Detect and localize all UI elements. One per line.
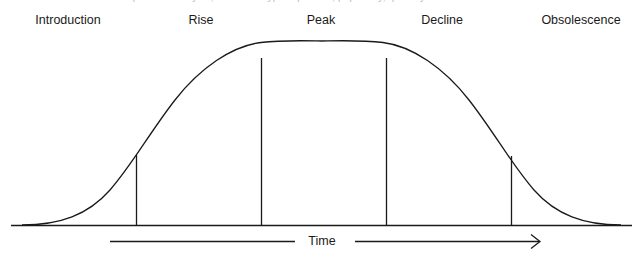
- time-axis-label: Time: [308, 232, 335, 250]
- bell-curve-plot: [0, 0, 643, 263]
- life-cycle-curve: [22, 41, 621, 225]
- time-axis: Time: [0, 232, 643, 252]
- product-life-cycle-figure: product life cycle, sales of a typical p…: [0, 0, 643, 263]
